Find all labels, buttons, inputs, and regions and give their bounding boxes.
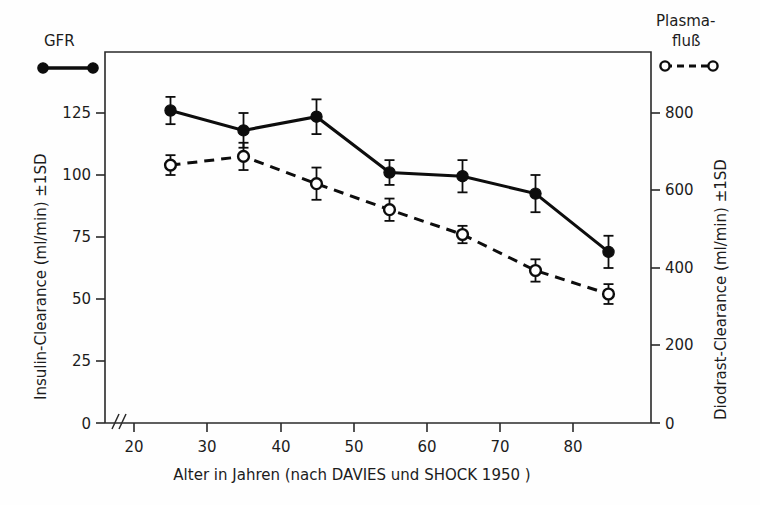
figure-canvas: GFR Plasma- fluß — [0, 0, 760, 505]
plot-frame — [105, 52, 651, 423]
right-tick-label: 600 — [665, 181, 694, 199]
filled-circle-icon — [457, 171, 468, 182]
left-tick-label: 125 — [62, 104, 91, 122]
left-tick-label: 50 — [72, 290, 91, 308]
filled-circle-icon — [165, 105, 176, 116]
filled-circle-icon — [311, 111, 322, 122]
series-gfr — [165, 97, 614, 268]
x-axis-tick-labels: 20 30 40 50 60 70 80 — [124, 438, 582, 456]
left-axis-title: Insulin-Clearance (ml/min) ±1SD — [32, 154, 50, 400]
open-circle-icon — [384, 204, 395, 215]
axis-break-marks — [112, 414, 126, 429]
filled-circle-icon — [603, 246, 614, 257]
right-tick-label: 800 — [665, 104, 694, 122]
left-axis-tick-labels: 125 100 75 50 25 0 — [62, 104, 91, 433]
right-tick-label: 400 — [665, 259, 694, 277]
x-tick-label: 80 — [563, 438, 582, 456]
open-circle-icon — [165, 160, 176, 171]
left-tick-label: 0 — [81, 415, 91, 433]
x-axis-ticks — [134, 423, 573, 432]
left-axis-ticks — [96, 113, 105, 423]
data-series-layer — [165, 97, 614, 304]
filled-circle-icon — [530, 188, 541, 199]
x-tick-label: 70 — [490, 438, 509, 456]
left-tick-label: 75 — [72, 228, 91, 246]
x-tick-label: 20 — [124, 438, 143, 456]
open-circle-icon — [530, 265, 541, 276]
open-circle-icon — [457, 229, 468, 240]
left-tick-label: 25 — [72, 352, 91, 370]
x-tick-label: 30 — [197, 438, 216, 456]
right-axis-tick-labels: 800 600 400 200 0 — [665, 104, 694, 433]
open-circle-icon — [238, 151, 249, 162]
left-tick-label: 100 — [62, 166, 91, 184]
filled-circle-icon — [384, 167, 395, 178]
open-circle-icon — [311, 178, 322, 189]
right-tick-label: 0 — [665, 415, 675, 433]
right-axis-title: Diodrast-Clearance (ml/min) ±1SD — [712, 159, 730, 420]
x-axis-title: Alter in Jahren (nach DAVIES und SHOCK 1… — [173, 466, 530, 484]
plot-area: 125 100 75 50 25 0 Insulin-Clearance (ml… — [0, 0, 760, 505]
right-tick-label: 200 — [665, 336, 694, 354]
right-axis-ticks — [651, 113, 660, 423]
x-tick-label: 40 — [271, 438, 290, 456]
x-tick-label: 50 — [344, 438, 363, 456]
open-circle-icon — [603, 289, 614, 300]
filled-circle-icon — [238, 125, 249, 136]
x-tick-label: 60 — [417, 438, 436, 456]
